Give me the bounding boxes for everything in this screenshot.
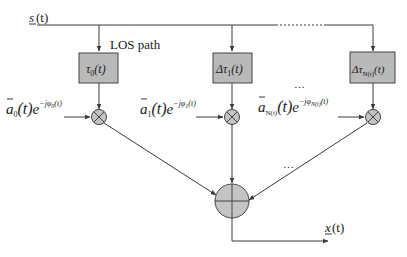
arrow-icon [249, 123, 367, 200]
input-var: s [29, 10, 34, 25]
delay-block-0-label: τ0(t) [86, 62, 106, 78]
output-path [232, 218, 328, 241]
gain-label-0: a0(t)e−jφ0(t) [6, 99, 62, 119]
arrow-icon [232, 218, 328, 241]
branch-0: LOS path τ0(t) a0(t)e−jφ0(t) [6, 25, 216, 195]
multiplier-0 [92, 110, 107, 125]
input-signal-label: s (t) [29, 10, 48, 25]
multiplier-1 [225, 110, 240, 125]
gain-label-N: aN(t)(t)e−jφN(t)(t) [258, 97, 329, 117]
los-path-label: LOS path [110, 37, 161, 52]
ellipsis-summer: … [283, 158, 294, 170]
arrow-icon [104, 123, 216, 195]
input-arg: (t) [36, 10, 48, 25]
branch-N: ΔτN(t)(t) aN(t)(t)e−jφN(t)(t) [249, 25, 395, 200]
output-signal-label: x (t) [324, 220, 344, 235]
multipath-channel-diagram: s (t) LOS path τ0(t) a0(t)e−jφ0(t) Δτ1(t… [0, 0, 407, 257]
output-arg: (t) [332, 220, 344, 235]
ellipsis-branches: … [294, 78, 305, 90]
gain-label-1: a1(t)e−jφ1(t) [140, 99, 196, 119]
multiplier-N [366, 110, 381, 125]
output-var: x [324, 220, 331, 235]
summer-node [215, 184, 249, 218]
